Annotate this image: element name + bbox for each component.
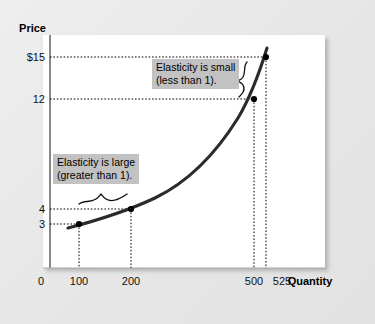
x-tick-label-200: 200: [122, 275, 140, 287]
data-point-525-15: [263, 54, 269, 60]
x-tick-label-500: 500: [245, 275, 263, 287]
y-tick-label-12: 12: [33, 93, 45, 105]
data-point-500-12: [251, 96, 257, 102]
annotation-elasticity-small-line2: (less than 1).: [156, 74, 235, 87]
figure-container: $15 12 4 3 0 100 200 500 525 Price Quant…: [0, 0, 375, 324]
x-tick-label-0: 0: [38, 275, 44, 287]
y-tick-label-4: 4: [39, 203, 45, 215]
y-axis-title: Price: [19, 22, 46, 34]
annotation-elasticity-large-line2: (greater than 1).: [57, 169, 135, 182]
data-point-200-4: [128, 206, 134, 212]
x-tick-label-100: 100: [70, 275, 88, 287]
annotation-elasticity-small: Elasticity is small (less than 1).: [152, 59, 239, 89]
data-point-100-3: [76, 221, 82, 227]
y-tick-label-15: $15: [27, 51, 45, 63]
annotation-elasticity-large-line1: Elasticity is large: [57, 156, 135, 169]
x-axis-title: Quantity: [288, 275, 333, 287]
annotation-elasticity-large: Elasticity is large (greater than 1).: [53, 154, 139, 184]
y-tick-label-3: 3: [39, 218, 45, 230]
brace-elasticity-large: [79, 194, 127, 204]
annotation-elasticity-small-line1: Elasticity is small: [156, 61, 235, 74]
